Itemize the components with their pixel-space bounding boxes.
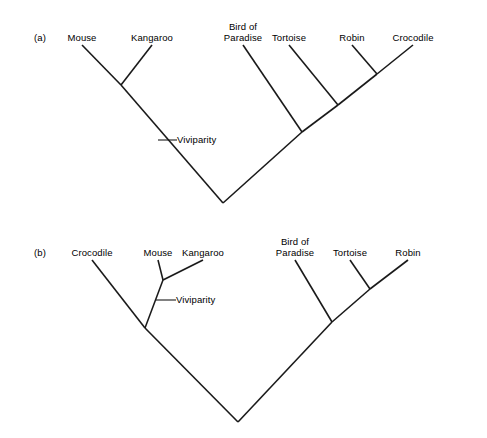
panel-b-branch-mouse-kang-stem bbox=[145, 280, 163, 328]
panel-b-branch-robin bbox=[370, 260, 408, 289]
panel-a-branch-mouse bbox=[82, 45, 121, 85]
panel-b-tip-label-tortoise: Tortoise bbox=[333, 248, 367, 259]
panel-b-tip-label-robin: Robin bbox=[395, 248, 420, 259]
panel-b-branches bbox=[92, 260, 408, 422]
panel-a-branches bbox=[82, 45, 413, 203]
panel-a-branch-bird bbox=[243, 45, 302, 132]
panel-a-branch-robin bbox=[352, 45, 377, 74]
cladogram-figure: (a)MouseKangarooBird of ParadiseTortoise… bbox=[0, 0, 487, 438]
panel-a-tip-label-bird-of-paradise: Bird of Paradise bbox=[224, 22, 262, 43]
panel-b-tip-label-mouse: Mouse bbox=[143, 248, 172, 259]
panel-b-branch-crocodile bbox=[92, 260, 145, 328]
panel-a-branch-crocodile bbox=[377, 45, 413, 74]
panel-a-branch-reptile-stem bbox=[223, 132, 302, 203]
panel-a-branch-tortoise-stem bbox=[302, 105, 338, 132]
panel-a-tip-label-robin: Robin bbox=[339, 33, 364, 44]
panel-b-branch-tortoise-robin-stem bbox=[332, 289, 370, 322]
panel-b-branch-bird bbox=[295, 260, 332, 322]
panel-b-branch-tortoise bbox=[350, 260, 370, 289]
panel-b-branch-mouse bbox=[158, 260, 163, 280]
panel-b-tip-label-kangaroo: Kangaroo bbox=[182, 248, 224, 259]
panel-b-branch-croc-clade-stem bbox=[145, 328, 238, 422]
panel-b-tip-label-bird-of-paradise: Bird of Paradise bbox=[276, 237, 314, 258]
panel-label-a: (a) bbox=[34, 33, 46, 44]
panel-b-trait-label-viviparity: Viviparity bbox=[176, 295, 215, 306]
panel-b-branch-bird-clade-stem bbox=[238, 322, 332, 422]
panel-a-branch-kangaroo bbox=[121, 45, 152, 85]
panel-a-branch-robin-croc-stem bbox=[338, 74, 377, 105]
panel-a-trait-label-viviparity: Viviparity bbox=[177, 135, 216, 146]
panel-b-branch-kangaroo bbox=[163, 260, 203, 280]
panel-a-tip-label-tortoise: Tortoise bbox=[272, 33, 306, 44]
panel-a-tip-label-kangaroo: Kangaroo bbox=[131, 33, 173, 44]
panel-label-b: (b) bbox=[34, 248, 46, 259]
panel-b-tip-label-crocodile: Crocodile bbox=[71, 248, 112, 259]
panel-a-branch-tortoise bbox=[289, 45, 338, 105]
panel-a-tip-label-mouse: Mouse bbox=[67, 33, 96, 44]
tree-canvas bbox=[0, 0, 487, 438]
panel-a-tip-label-crocodile: Crocodile bbox=[392, 33, 433, 44]
